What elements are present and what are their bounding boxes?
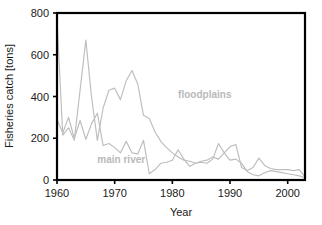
series-label-floodplains: floodplains: [178, 89, 232, 100]
y-axis-title: Fisheries catch [tons]: [3, 44, 15, 148]
line-chart: 0200400600800 19601970198019902000 flood…: [0, 0, 322, 225]
series-label-main-river: main river: [97, 154, 145, 165]
x-tick-label: 1990: [218, 187, 242, 199]
x-axis-title: Year: [170, 206, 193, 218]
y-tick-label: 600: [31, 49, 49, 61]
y-tick-label: 400: [31, 91, 49, 103]
chart-figure: 0200400600800 19601970198019902000 flood…: [0, 0, 322, 225]
x-tick-label: 1960: [45, 187, 69, 199]
y-tick-label: 800: [31, 7, 49, 19]
x-tick-label: 2000: [275, 187, 299, 199]
y-tick-label: 200: [31, 132, 49, 144]
x-tick-label: 1970: [102, 187, 126, 199]
y-tick-label: 0: [43, 174, 49, 186]
x-tick-label: 1980: [160, 187, 184, 199]
